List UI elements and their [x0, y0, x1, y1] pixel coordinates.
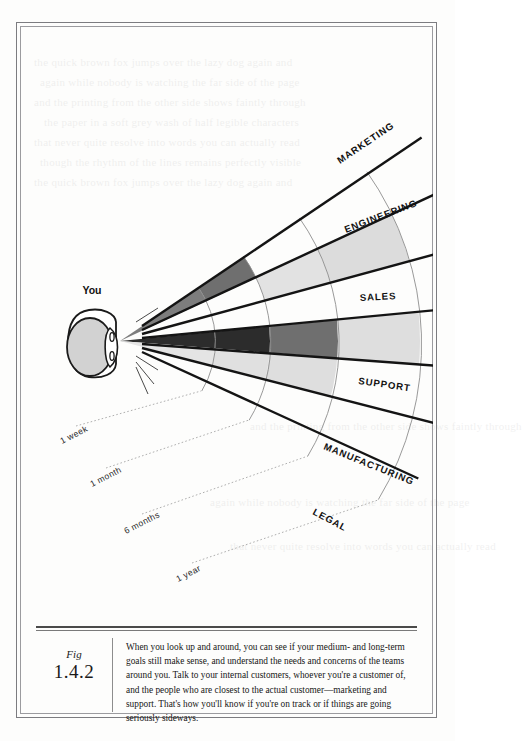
viewer-label: You: [82, 284, 101, 296]
figure-diagram: You MARKETING ENGINEERING SALES SUPPORT …: [20, 26, 433, 606]
sector-label-support: SUPPORT: [358, 375, 412, 393]
leader-6-months: [142, 456, 308, 514]
figure-number-box: Fig 1.4.2: [36, 638, 112, 684]
eye-icon: [67, 310, 118, 378]
caption-rule-thin: [36, 630, 417, 631]
sector-label-marketing: MARKETING: [335, 120, 396, 166]
leader-1-year: [192, 500, 378, 563]
figure-label: Fig: [36, 648, 112, 660]
sector-label-manufacturing: MANUFACTURING: [322, 441, 416, 487]
sector-label-legal: LEGAL: [311, 506, 349, 533]
distance-label-1-week: 1 week: [58, 423, 89, 445]
sector-label-sales: SALES: [360, 290, 397, 303]
distance-label-1-month: 1 month: [88, 465, 123, 489]
time-label-leaders: [76, 391, 378, 563]
figure-caption-text: When you look up and around, you can see…: [113, 638, 417, 725]
figure-caption-block: Fig 1.4.2 When you look up and around, y…: [36, 638, 417, 712]
leader-1-week: [76, 391, 201, 426]
distance-label-1-year: 1 year: [174, 563, 202, 584]
caption-rule-thick: [36, 626, 417, 628]
figure-number: 1.4.2: [36, 660, 112, 684]
leader-1-month: [106, 420, 249, 468]
distance-label-6-months: 6 months: [122, 509, 161, 535]
